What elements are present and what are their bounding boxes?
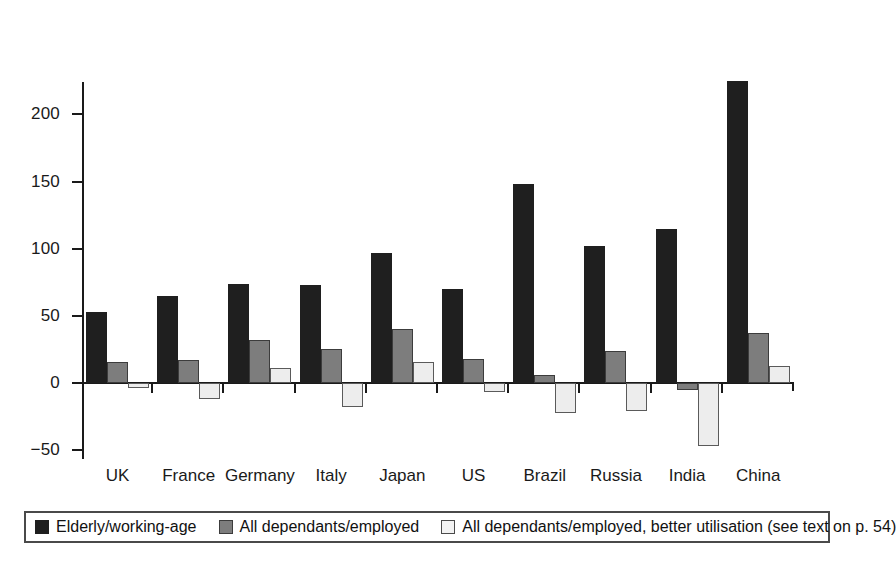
bar-china-series-2 bbox=[769, 366, 790, 383]
bar-germany-series-1 bbox=[249, 340, 270, 383]
x-tick-0 bbox=[151, 384, 153, 393]
y-tick-150 bbox=[72, 181, 82, 183]
x-tick-5 bbox=[507, 384, 509, 393]
bar-italy-series-2 bbox=[342, 383, 363, 407]
y-tick-label-0: 0 bbox=[14, 374, 60, 391]
x-tick-4 bbox=[436, 384, 438, 393]
gray-swatch bbox=[219, 520, 233, 534]
y-tick-100 bbox=[72, 248, 82, 250]
bar-japan-series-2 bbox=[413, 362, 434, 383]
x-tick-7 bbox=[650, 384, 652, 393]
y-tick-200 bbox=[72, 113, 82, 115]
x-tick-2 bbox=[294, 384, 296, 393]
bar-italy-series-1 bbox=[321, 349, 342, 383]
bar-brazil-series-1 bbox=[534, 375, 555, 383]
y-tick-label-50: 50 bbox=[14, 307, 60, 324]
bar-us-series-2 bbox=[484, 383, 505, 392]
bar-russia-series-1 bbox=[605, 351, 626, 383]
legend-item-1[interactable]: All dependants/employed bbox=[219, 518, 420, 536]
y-tick-label-100: 100 bbox=[14, 240, 60, 257]
x-axis-end-tick bbox=[792, 382, 794, 391]
bar-brazil-series-2 bbox=[555, 383, 576, 413]
bar-brazil-series-0 bbox=[513, 184, 534, 383]
bar-russia-series-2 bbox=[626, 383, 647, 411]
legend-item-0[interactable]: Elderly/working-age bbox=[35, 518, 197, 536]
legend-item-2[interactable]: All dependants/employed, better utilisat… bbox=[441, 518, 896, 536]
dark-swatch bbox=[35, 520, 49, 534]
y-tick-label--50: −50 bbox=[14, 441, 60, 458]
bar-germany-series-2 bbox=[270, 368, 291, 383]
bar-uk-series-1 bbox=[107, 362, 128, 383]
light-swatch bbox=[441, 520, 455, 534]
y-tick-50 bbox=[72, 315, 82, 317]
chart-legend: Elderly/working-ageAll dependants/employ… bbox=[24, 511, 830, 543]
bar-india-series-0 bbox=[656, 229, 677, 383]
y-tick-0 bbox=[72, 382, 82, 384]
y-tick-label-150: 150 bbox=[14, 173, 60, 190]
bar-us-series-1 bbox=[463, 359, 484, 383]
bar-france-series-1 bbox=[178, 360, 199, 383]
legend-label-0: Elderly/working-age bbox=[56, 518, 197, 536]
bar-germany-series-0 bbox=[228, 284, 249, 383]
bar-uk-series-2 bbox=[128, 383, 149, 388]
bar-japan-series-1 bbox=[392, 329, 413, 383]
legend-label-1: All dependants/employed bbox=[240, 518, 420, 536]
bar-japan-series-0 bbox=[371, 253, 392, 383]
x-tick-6 bbox=[578, 384, 580, 393]
bar-italy-series-0 bbox=[300, 285, 321, 383]
x-tick-3 bbox=[365, 384, 367, 393]
y-tick--50 bbox=[72, 449, 82, 451]
bar-china-series-1 bbox=[748, 333, 769, 383]
bar-russia-series-0 bbox=[584, 246, 605, 383]
bar-us-series-0 bbox=[442, 289, 463, 383]
bar-china-series-0 bbox=[727, 81, 748, 383]
bar-france-series-2 bbox=[199, 383, 220, 399]
bar-india-series-2 bbox=[698, 383, 719, 446]
x-tick-8 bbox=[721, 384, 723, 393]
legend-label-2: All dependants/employed, better utilisat… bbox=[462, 518, 896, 536]
bar-uk-series-0 bbox=[86, 312, 107, 383]
bar-india-series-1 bbox=[677, 383, 698, 390]
y-axis-line bbox=[82, 82, 84, 459]
category-label-china: China bbox=[715, 466, 802, 485]
x-tick-1 bbox=[222, 384, 224, 393]
bar-france-series-0 bbox=[157, 296, 178, 383]
y-tick-label-200: 200 bbox=[14, 105, 60, 122]
